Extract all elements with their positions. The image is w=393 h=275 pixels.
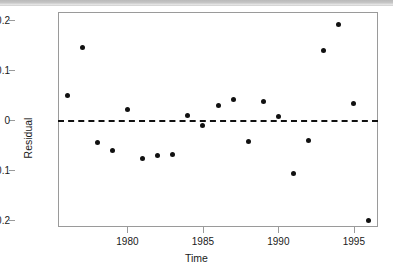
data-point [261, 99, 266, 104]
x-axis-tick [354, 227, 355, 233]
data-point [140, 156, 145, 161]
data-point [276, 114, 281, 119]
data-point [185, 113, 190, 118]
window-top-divider [0, 5, 393, 6]
y-axis-tick-label: 0.1 [0, 64, 10, 75]
y-axis-tick-label: 0 [4, 114, 10, 125]
plot-area [58, 12, 378, 227]
data-point [95, 140, 100, 145]
y-axis-tick-label: 0.2 [0, 14, 10, 25]
data-point [200, 123, 205, 128]
data-point [231, 97, 236, 102]
y-axis-tick-label: −0.2 [0, 214, 10, 225]
y-axis-title: Residual [22, 88, 34, 188]
x-axis-tick [203, 227, 204, 233]
x-axis-tick [127, 227, 128, 233]
data-point [366, 218, 371, 223]
data-point [321, 48, 326, 53]
y-axis-title-wrap: Residual [14, 0, 28, 275]
data-point [351, 101, 356, 106]
x-axis-tick [278, 227, 279, 233]
data-point [170, 152, 175, 157]
data-point [246, 139, 251, 144]
x-axis-tick-label: 1995 [343, 236, 365, 247]
y-axis-tick-label: −0.1 [0, 164, 10, 175]
data-point [306, 138, 311, 143]
x-axis-tick-label: 1980 [116, 236, 138, 247]
data-point [125, 107, 130, 112]
data-point [110, 148, 115, 153]
data-point [336, 22, 341, 27]
data-point [80, 45, 85, 50]
residual-scatter-figure: 0.20.10−0.1−0.2 1980198519901995 Residua… [0, 0, 393, 275]
data-point [216, 103, 221, 108]
x-axis-tick-label: 1990 [267, 236, 289, 247]
data-point [65, 93, 70, 98]
zero-reference-line [58, 120, 378, 122]
data-point [291, 171, 296, 176]
data-point [155, 153, 160, 158]
x-axis-tick-label: 1985 [192, 236, 214, 247]
x-axis-title: Time [0, 252, 393, 264]
